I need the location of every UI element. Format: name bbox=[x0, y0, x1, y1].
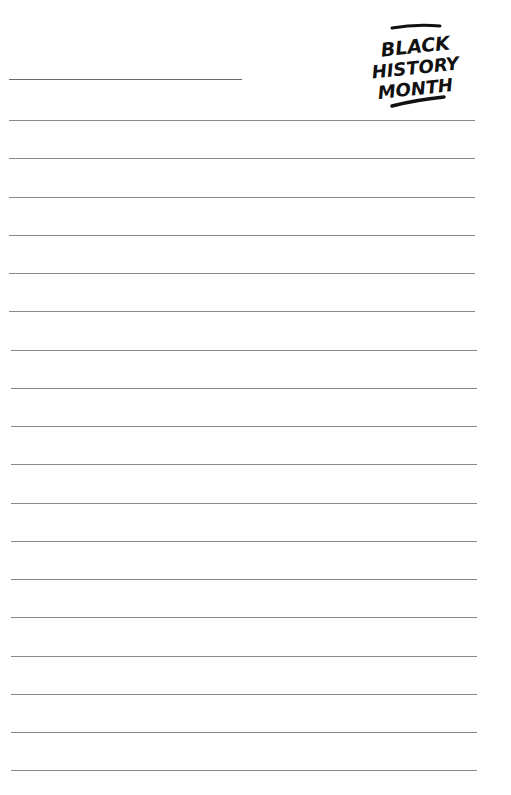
ruled-line bbox=[11, 770, 477, 771]
ruled-line bbox=[11, 503, 477, 504]
ruled-line bbox=[9, 311, 475, 312]
ruled-line bbox=[11, 656, 477, 657]
ruled-line bbox=[11, 617, 477, 618]
ruled-line bbox=[11, 350, 477, 351]
ruled-line bbox=[9, 120, 475, 121]
black-history-month-logo-icon: BLACK HISTORY MONTH bbox=[370, 22, 462, 112]
ruled-line bbox=[11, 464, 477, 465]
name-line bbox=[9, 79, 242, 80]
logo: BLACK HISTORY MONTH bbox=[370, 22, 462, 112]
ruled-line bbox=[11, 388, 477, 389]
ruled-line bbox=[9, 158, 475, 159]
ruled-line bbox=[11, 579, 477, 580]
ruled-line bbox=[11, 732, 477, 733]
ruled-line bbox=[9, 235, 475, 236]
ruled-line bbox=[9, 273, 475, 274]
ruled-line bbox=[11, 541, 477, 542]
ruled-line bbox=[11, 694, 477, 695]
ruled-line bbox=[9, 197, 475, 198]
ruled-line bbox=[11, 426, 477, 427]
